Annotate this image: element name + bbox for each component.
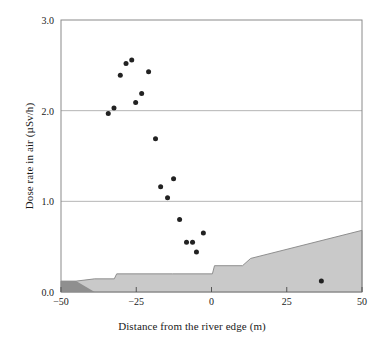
data-point bbox=[194, 250, 199, 255]
data-point bbox=[133, 100, 138, 105]
data-point bbox=[124, 61, 129, 66]
chart-figure: 0.01.02.03.0 −50−2502550 Distance from t… bbox=[0, 0, 384, 345]
data-point bbox=[190, 240, 195, 245]
x-tick-label: −25 bbox=[128, 296, 144, 307]
data-point bbox=[146, 69, 151, 74]
x-tick-label: −50 bbox=[53, 296, 69, 307]
x-axis-title: Distance from the river edge (m) bbox=[0, 320, 384, 332]
data-point bbox=[201, 231, 206, 236]
data-point bbox=[139, 91, 144, 96]
data-point bbox=[118, 73, 123, 78]
x-tick-label: 25 bbox=[282, 296, 292, 307]
y-tick-label: 3.0 bbox=[22, 15, 54, 26]
data-point bbox=[129, 57, 134, 62]
data-point bbox=[177, 217, 182, 222]
y-axis-title: Dose rate in air (µSv/h) bbox=[23, 41, 35, 271]
x-tick-label: 0 bbox=[209, 296, 214, 307]
x-tick-label: 50 bbox=[357, 296, 367, 307]
y-tick-label: 0.0 bbox=[22, 287, 54, 298]
data-point bbox=[165, 195, 170, 200]
data-point bbox=[158, 184, 163, 189]
data-point bbox=[319, 279, 324, 284]
data-point bbox=[171, 176, 176, 181]
data-point bbox=[184, 240, 189, 245]
data-point bbox=[111, 105, 116, 110]
data-point bbox=[106, 111, 111, 116]
data-point bbox=[153, 136, 158, 141]
scatter-plot-canvas bbox=[0, 0, 384, 345]
